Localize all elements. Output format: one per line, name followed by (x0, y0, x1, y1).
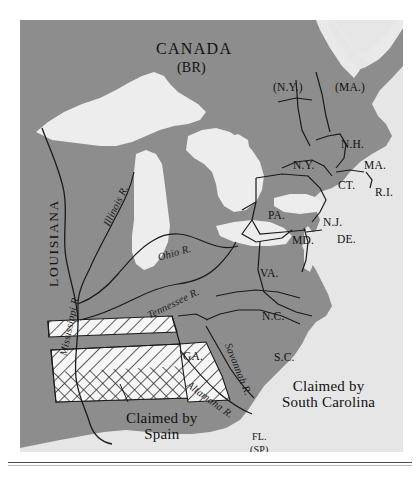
label-ny: N.Y. (293, 159, 315, 171)
label-nh: N.H. (341, 138, 364, 150)
historical-map: CANADA (BR) LOUISIANA (N.Y.) (MA.) N.H. … (20, 20, 403, 452)
claim-spain-line1: Claimed by (126, 410, 198, 426)
label-ri: R.I. (375, 186, 393, 198)
label-va: VA. (260, 267, 279, 279)
label-canada-br: (BR) (177, 60, 206, 76)
label-ma-claim: (MA.) (335, 81, 365, 93)
label-sc: S.C. (274, 351, 295, 363)
footer-rule (8, 462, 412, 463)
label-nj: N.J. (323, 216, 342, 228)
claim-south-carolina: Claimed by South Carolina (282, 378, 375, 410)
claim-spain-line2: Spain (126, 426, 198, 442)
label-md: MD. (292, 234, 314, 246)
label-ny-claim: (N.Y.) (273, 81, 303, 93)
label-nc: N.C. (262, 310, 285, 322)
label-de: DE. (337, 233, 356, 245)
claim-sc-line1: Claimed by (282, 378, 375, 394)
label-canada: CANADA (156, 40, 232, 58)
label-ct: CT. (338, 179, 355, 191)
label-fl: FL. (252, 431, 267, 442)
claim-spain: Claimed by Spain (126, 410, 198, 442)
label-pa: PA. (268, 209, 285, 221)
footer-rule-secondary (8, 465, 412, 466)
claim-sc-line2: South Carolina (282, 394, 375, 410)
label-louisiana: LOUISIANA (46, 199, 62, 287)
label-fl-sp: (SP) (250, 444, 269, 452)
label-ga: GA. (183, 350, 203, 362)
map-page: CANADA (BR) LOUISIANA (N.Y.) (MA.) N.H. … (0, 0, 420, 486)
label-ma: MA. (364, 159, 386, 171)
